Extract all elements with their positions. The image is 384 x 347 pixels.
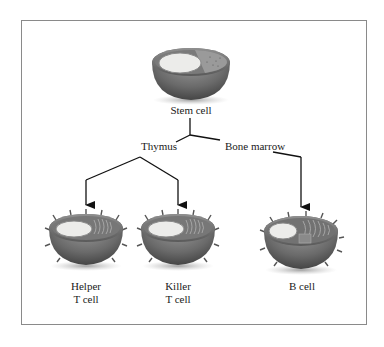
- stem-cell-label: Stem cell: [160, 104, 222, 117]
- killer-t-cell-icon: [137, 209, 219, 271]
- thymus-label: Thymus: [138, 140, 180, 153]
- helper-t-cell-label-line2: T cell: [56, 293, 116, 306]
- b-cell-icon: [260, 211, 344, 275]
- helper-t-cell-icon: [45, 209, 127, 271]
- helper-t-cell-label: Helper T cell: [56, 280, 116, 306]
- connector-lines: [86, 118, 301, 207]
- killer-t-cell-label-line1: Killer: [148, 280, 208, 293]
- killer-t-cell-label: Killer T cell: [148, 280, 208, 306]
- stem-cell-icon: [152, 48, 230, 105]
- b-cell-label: B cell: [272, 280, 332, 293]
- killer-t-cell-label-line2: T cell: [148, 293, 208, 306]
- helper-t-cell-label-line1: Helper: [56, 280, 116, 293]
- bone-marrow-label: Bone marrow: [220, 140, 290, 153]
